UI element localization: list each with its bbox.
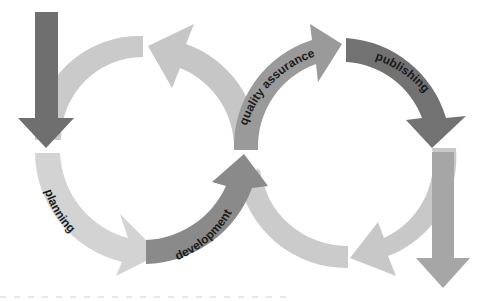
stage-planning: planning	[35, 153, 160, 276]
process-diagram: planning development quality assurance p…	[0, 0, 486, 301]
scan-artifact	[0, 296, 290, 298]
stage-publishing: publishing	[346, 38, 466, 148]
stage-quality-assurance: quality assurance	[234, 24, 342, 150]
